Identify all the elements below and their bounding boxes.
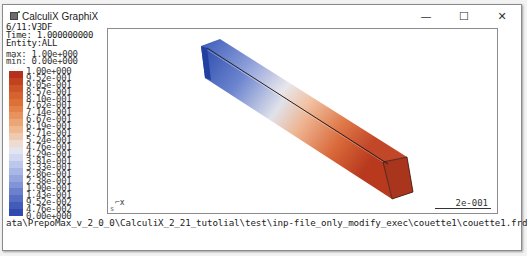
result-info: 6/11:V3DFTime: 1.000000000Entity:ALL xyxy=(6,23,93,47)
legend-swatch xyxy=(9,161,23,168)
window-controls: — ☐ ✕ xyxy=(407,5,521,27)
entity-label: Entity:ALL xyxy=(6,39,93,47)
file-path-status: ata\PrepoMax_v_2_0_0\CalculiX_2_21_tutol… xyxy=(6,217,527,228)
legend-swatch xyxy=(9,78,23,85)
beam-top-face xyxy=(201,39,407,162)
maximize-button[interactable]: ☐ xyxy=(445,5,483,27)
close-button[interactable]: ✕ xyxy=(483,5,521,27)
legend-swatch xyxy=(9,106,23,113)
viewport-corner-label: s xyxy=(110,205,114,213)
scale-bar: 2e-001 xyxy=(435,198,491,209)
legend-swatch xyxy=(9,168,23,175)
window-title: CalculiX GraphiX xyxy=(22,11,98,22)
legend-swatch xyxy=(9,195,23,202)
legend-swatch xyxy=(9,175,23,182)
legend-swatch xyxy=(9,112,23,119)
minimize-button[interactable]: — xyxy=(407,5,445,27)
axis-triad-icon: ⌐x xyxy=(115,198,125,207)
minimize-icon: — xyxy=(421,10,432,23)
beam-side-face xyxy=(201,46,392,199)
legend-swatch xyxy=(9,119,23,126)
legend-swatch xyxy=(9,154,23,161)
legend-swatch xyxy=(9,85,23,92)
legend-swatch xyxy=(9,209,23,216)
legend-swatch xyxy=(9,92,23,99)
legend-swatch xyxy=(9,140,23,147)
legend-swatch xyxy=(9,99,23,106)
maximize-icon: ☐ xyxy=(459,10,469,23)
beam-model xyxy=(108,29,498,214)
max-min-info: max: 1.00e+000min: 0.00e+000 xyxy=(6,51,78,65)
cgx-window: CalculiX GraphiX — ☐ ✕ 6/11:V3DFTime: 1.… xyxy=(2,4,522,251)
legend-swatch xyxy=(9,147,23,154)
legend-swatch xyxy=(9,182,23,189)
legend-swatch xyxy=(9,202,23,209)
color-legend xyxy=(9,71,23,216)
app-icon xyxy=(10,12,18,20)
legend-swatch xyxy=(9,133,23,140)
legend-labels: 1.00e+0009.52e-0019.05e-0018.57e-0018.10… xyxy=(26,68,71,220)
beam-edge-line xyxy=(207,48,388,164)
legend-swatch xyxy=(9,188,23,195)
legend-swatch xyxy=(9,71,23,78)
render-viewport[interactable]: ⌐x s 2e-001 xyxy=(107,28,498,214)
legend-swatch xyxy=(9,126,23,133)
min-label: min: 0.00e+000 xyxy=(6,58,78,65)
close-icon: ✕ xyxy=(497,10,506,23)
